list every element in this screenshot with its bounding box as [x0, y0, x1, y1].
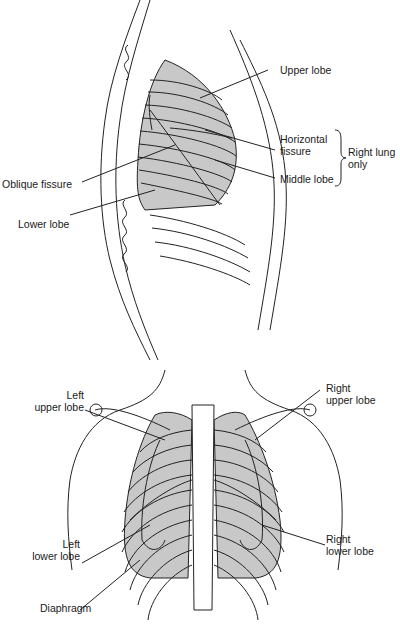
label-left-lower-lobe-line2: lower lobe: [18, 550, 80, 562]
label-right-upper-lobe-line2: upper lobe: [326, 394, 376, 406]
label-middle-lobe: Middle lobe: [280, 173, 334, 185]
label-horizontal-fissure-line2: fissure: [280, 145, 327, 157]
label-left-upper-lobe-line2: upper lobe: [20, 401, 84, 413]
label-horizontal-fissure: Horizontal fissure: [280, 133, 327, 157]
label-upper-lobe: Upper lobe: [280, 64, 331, 76]
label-left-upper-lobe-line1: Left: [20, 389, 84, 401]
label-right-lower-lobe-line2: lower lobe: [326, 545, 374, 557]
label-diaphragm: Diaphragm: [40, 602, 91, 614]
label-right-lower-lobe: Right lower lobe: [326, 533, 374, 557]
label-right-lower-lobe-line1: Right: [326, 533, 374, 545]
label-right-upper-lobe: Right upper lobe: [326, 382, 376, 406]
label-left-lower-lobe: Left lower lobe: [18, 538, 80, 562]
label-right-upper-lobe-line1: Right: [326, 382, 376, 394]
label-left-upper-lobe: Left upper lobe: [20, 389, 84, 413]
label-lower-lobe: Lower lobe: [18, 218, 69, 230]
label-right-lung-only: Right lung only: [348, 146, 395, 170]
label-left-lower-lobe-line1: Left: [18, 538, 80, 550]
label-horizontal-fissure-line1: Horizontal: [280, 133, 327, 145]
label-right-lung-only-line1: Right lung: [348, 146, 395, 158]
posterior-view-drawing: [68, 370, 342, 620]
label-right-lung-only-line2: only: [348, 158, 395, 170]
label-oblique-fissure: Oblique fissure: [2, 178, 72, 190]
